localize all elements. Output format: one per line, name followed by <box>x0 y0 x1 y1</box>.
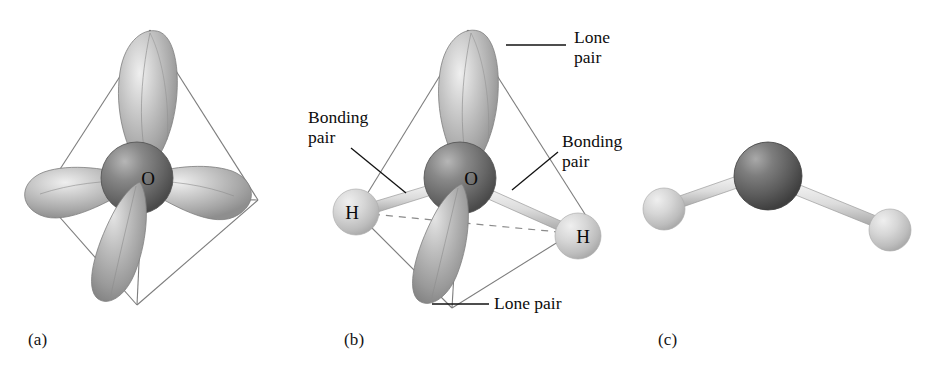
panel-caption-a: (a) <box>28 330 47 350</box>
leader-bonding-pair-right <box>512 152 558 190</box>
hydrogen-label-b-right: H <box>576 226 590 247</box>
hydrogen-sphere-c-right <box>869 209 911 251</box>
panel-caption-b: (b) <box>344 330 364 350</box>
oxygen-label-b: O <box>464 168 478 189</box>
callout-lone-pair-top: Lone pair <box>574 28 610 67</box>
oxygen-label-a: O <box>141 168 155 189</box>
callout-bonding-pair-left: Bonding pair <box>308 108 368 147</box>
panel-caption-c: (c) <box>658 330 677 350</box>
oxygen-sphere-c <box>734 142 802 210</box>
panel-c-group <box>643 142 911 251</box>
callout-lone-pair-bottom: Lone pair <box>494 294 562 314</box>
leader-bonding-pair-left <box>351 148 406 193</box>
panel-a-group: O <box>25 30 258 305</box>
callout-bonding-pair-right: Bonding pair <box>562 132 622 171</box>
panel-b-group: O H H <box>333 30 601 308</box>
molecule-illustration: O <box>0 0 943 370</box>
figure-root: O <box>0 0 943 370</box>
hydrogen-label-b-left: H <box>345 202 359 223</box>
hydrogen-sphere-c-left <box>643 188 685 230</box>
